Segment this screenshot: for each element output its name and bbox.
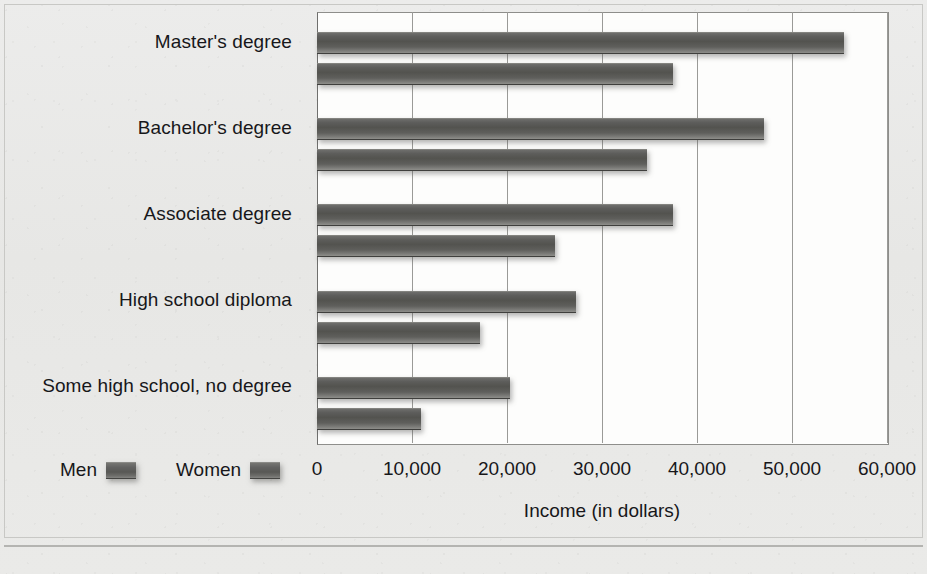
x-tick-label: 40,000 — [668, 458, 726, 480]
bar-men-3 — [317, 291, 576, 313]
legend-label-men: Men — [60, 459, 97, 481]
x-tick-label: 50,000 — [763, 458, 821, 480]
bar-men-4 — [317, 377, 510, 399]
gridline — [792, 12, 793, 443]
bar-men-2 — [317, 204, 673, 226]
legend-swatch-women — [250, 462, 280, 479]
x-tick-label: 0 — [312, 458, 323, 480]
bar-women-1 — [317, 149, 647, 171]
bar-chart: Master's degreeBachelor's degreeAssociat… — [0, 0, 927, 574]
x-tick-label: 20,000 — [478, 458, 536, 480]
category-label: Master's degree — [155, 31, 292, 53]
legend-label-women: Women — [176, 459, 241, 481]
bar-women-0 — [317, 63, 673, 85]
x-axis-title: Income (in dollars) — [317, 500, 887, 522]
bar-women-4 — [317, 408, 421, 430]
bar-women-2 — [317, 235, 555, 257]
x-tick-label: 30,000 — [573, 458, 631, 480]
gridline — [887, 12, 888, 443]
bar-women-3 — [317, 322, 480, 344]
x-tick-label: 60,000 — [858, 458, 916, 480]
category-axis-labels: Master's degreeBachelor's degreeAssociat… — [0, 0, 306, 443]
legend-swatch-men — [106, 462, 136, 479]
chart-legend: Men Women — [60, 455, 280, 485]
figure-page: Master's degreeBachelor's degreeAssociat… — [0, 0, 927, 574]
x-tick-label: 10,000 — [383, 458, 441, 480]
category-label: High school diploma — [119, 289, 292, 311]
category-label: Bachelor's degree — [138, 117, 292, 139]
bar-men-1 — [317, 118, 764, 140]
category-label: Some high school, no degree — [42, 375, 292, 397]
category-label: Associate degree — [144, 203, 292, 225]
bar-men-0 — [317, 32, 844, 54]
gridline — [697, 12, 698, 443]
